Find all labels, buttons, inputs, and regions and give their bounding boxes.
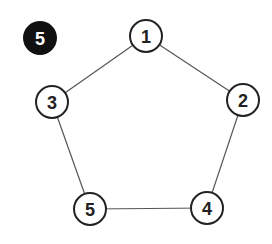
edge-5-4 xyxy=(90,208,207,209)
node-5: 5 xyxy=(74,193,106,225)
node-4: 4 xyxy=(191,192,223,224)
node-2: 2 xyxy=(227,84,259,116)
node-label: 5 xyxy=(85,200,95,220)
nodes: 12345 xyxy=(36,20,259,225)
node-label: 1 xyxy=(141,27,151,47)
edge-4-2 xyxy=(207,100,243,208)
node-label: 4 xyxy=(202,199,212,219)
edge-1-2 xyxy=(146,36,243,100)
node-label: 3 xyxy=(47,93,57,113)
node-1: 1 xyxy=(130,20,162,52)
badge-label: 5 xyxy=(35,29,45,49)
figure-number-badge: 5 xyxy=(23,21,57,55)
edge-1-3 xyxy=(52,36,146,102)
pentagon-graph-diagram: 12345 5 xyxy=(0,0,272,244)
node-3: 3 xyxy=(36,86,68,118)
node-label: 2 xyxy=(238,91,248,111)
edges xyxy=(52,36,243,209)
edge-3-5 xyxy=(52,102,90,209)
